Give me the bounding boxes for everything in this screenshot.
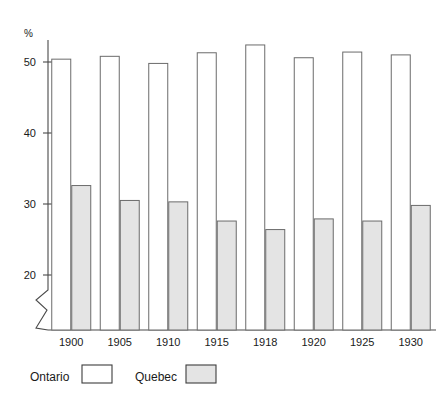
bar-ontario-1930 — [391, 55, 410, 330]
x-axis-tick-label-1915: 1915 — [205, 336, 229, 348]
x-axis-tick-label-1905: 1905 — [108, 336, 132, 348]
x-axis-tick-label-1900: 1900 — [59, 336, 83, 348]
y-axis-tick-label: 40 — [24, 127, 36, 139]
bar-quebec-1905 — [120, 200, 139, 330]
x-axis-tick-labels: 19001905191019151918192019251930 — [59, 336, 423, 348]
y-axis-tick-labels: 20304050 — [24, 56, 53, 281]
x-axis-tick-label-1925: 1925 — [350, 336, 374, 348]
x-axis-tick-label-1918: 1918 — [253, 336, 277, 348]
y-axis-tick-label: 50 — [24, 56, 36, 68]
x-axis-tick-label-1910: 1910 — [156, 336, 180, 348]
bar-quebec-1925 — [363, 221, 382, 330]
legend-label-quebec: Quebec — [135, 370, 177, 384]
chart-bars — [52, 45, 431, 330]
bar-quebec-1930 — [411, 205, 430, 330]
legend-swatch-ontario-icon — [82, 365, 112, 383]
bar-ontario-1915 — [197, 53, 216, 330]
bar-chart-figure: % 20304050 19001905191019151918192019251… — [0, 0, 443, 398]
y-axis-tick-label: 20 — [24, 269, 36, 281]
y-axis-tick-label: 30 — [24, 198, 36, 210]
legend-label-ontario: Ontario — [30, 370, 70, 384]
chart-container: % 20304050 19001905191019151918192019251… — [0, 0, 443, 398]
bar-quebec-1920 — [314, 219, 333, 330]
bar-quebec-1900 — [72, 186, 91, 330]
bar-quebec-1915 — [217, 221, 236, 330]
bar-ontario-1900 — [52, 59, 71, 330]
chart-legend: OntarioQuebec — [30, 365, 216, 384]
bar-ontario-1918 — [246, 45, 265, 330]
bar-ontario-1910 — [149, 63, 168, 330]
y-axis-line — [36, 40, 48, 330]
bar-ontario-1920 — [294, 58, 313, 330]
bar-quebec-1918 — [266, 230, 285, 330]
bar-quebec-1910 — [169, 202, 188, 330]
bar-ontario-1905 — [100, 56, 119, 330]
y-axis-unit-label: % — [24, 28, 33, 39]
x-axis-tick-label-1920: 1920 — [302, 336, 326, 348]
bar-ontario-1925 — [343, 52, 362, 330]
legend-swatch-quebec-icon — [186, 365, 216, 383]
x-axis-tick-label-1930: 1930 — [399, 336, 423, 348]
